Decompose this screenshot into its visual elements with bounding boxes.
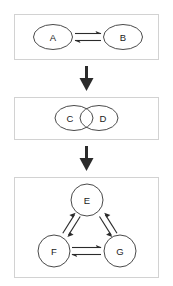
- panel-middle-border: [15, 98, 159, 140]
- flow-arrow-1: [80, 66, 94, 91]
- diagram-root: A B: [0, 0, 173, 286]
- panel-top: A B: [15, 15, 159, 60]
- node-e-label: E: [84, 195, 90, 206]
- node-b-label: B: [120, 32, 126, 43]
- panel-top-border: [15, 15, 159, 60]
- node-g-label: G: [116, 246, 123, 257]
- panel-bottom: E F G: [15, 178, 159, 278]
- node-a-label: A: [50, 32, 57, 43]
- flow-arrow-1-head: [80, 78, 94, 91]
- node-c-label: C: [67, 113, 74, 124]
- diagram-canvas: A B: [0, 0, 173, 286]
- flow-arrow-2: [80, 146, 94, 171]
- panel-middle: C D: [15, 98, 159, 140]
- node-d-label: D: [100, 113, 107, 124]
- node-f-label: F: [51, 246, 57, 257]
- flow-arrow-2-head: [80, 158, 94, 171]
- panel-bottom-border: [15, 178, 159, 278]
